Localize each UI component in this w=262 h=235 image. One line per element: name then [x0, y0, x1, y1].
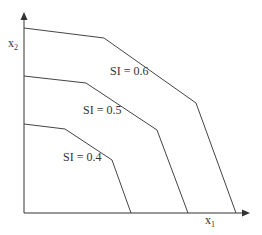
- x-axis-label: x1: [205, 213, 215, 228]
- curve-si-0.5: [24, 76, 188, 213]
- curve-si-0.6: [24, 28, 236, 213]
- curve-label-si-0.5: SI = 0.5: [83, 103, 121, 118]
- diagram-canvas: [0, 0, 262, 235]
- curve-si-0.4: [24, 124, 131, 213]
- curve-label-si-0.4: SI = 0.4: [63, 150, 101, 165]
- y-axis-arrow-icon: [21, 12, 28, 20]
- x-axis-arrow-icon: [242, 210, 250, 217]
- curve-label-si-0.6: SI = 0.6: [110, 64, 148, 79]
- y-axis-label: x2: [8, 36, 18, 51]
